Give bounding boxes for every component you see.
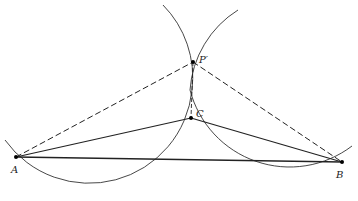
point-P xyxy=(191,60,195,64)
label-P: P′ xyxy=(198,54,209,65)
segment-AB xyxy=(16,157,342,162)
point-B xyxy=(340,160,344,164)
arc-through-B xyxy=(190,10,352,167)
arc-through-A xyxy=(5,5,193,183)
construction-diagram: A B C P′ xyxy=(0,0,358,201)
point-A xyxy=(14,155,18,159)
segment-AC xyxy=(16,118,191,157)
label-A: A xyxy=(10,164,18,175)
segment-CB xyxy=(191,118,342,162)
segment-AP xyxy=(16,62,193,157)
segment-PB xyxy=(193,62,342,162)
label-B: B xyxy=(335,169,343,180)
label-C: C xyxy=(196,108,204,119)
point-C xyxy=(189,116,193,120)
